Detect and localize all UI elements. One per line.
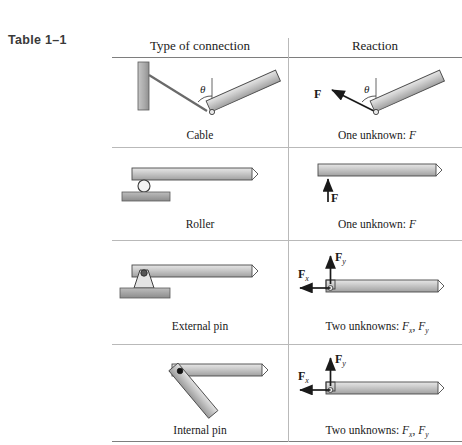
external-pin-reaction-diagram: Fy Fx xyxy=(292,248,462,318)
pin-joint xyxy=(373,109,378,114)
roller-wheel xyxy=(138,180,150,192)
caption-internal-pin: Internal pin xyxy=(112,424,288,436)
internal-pin-joint xyxy=(177,368,183,374)
caption-symbol: F xyxy=(409,129,416,141)
angle-label-theta: θ xyxy=(364,83,370,95)
cell-roller-reaction: F xyxy=(292,150,462,218)
internal-pin-connection-diagram xyxy=(112,350,288,420)
caption-symbol-fx: Fx xyxy=(402,320,412,332)
force-label-Fx: Fx xyxy=(298,267,309,283)
beam-end-cap xyxy=(436,164,442,176)
beam xyxy=(326,280,438,292)
force-label-F: F xyxy=(331,191,338,205)
column-header-connection: Type of connection xyxy=(112,38,288,54)
bottom-rule xyxy=(112,441,462,442)
row-divider-1 xyxy=(112,147,462,148)
cell-external-pin-connection xyxy=(112,248,288,318)
table-title: Table 1–1 xyxy=(8,33,67,47)
base-plate xyxy=(122,192,170,201)
column-divider xyxy=(288,38,289,442)
caption-internal-pin-reaction: Two unknowns: Fx, Fy xyxy=(292,424,462,439)
cell-cable-connection: θ xyxy=(112,58,288,130)
cell-roller-connection xyxy=(112,150,288,218)
caption-roller-reaction: One unknown: F xyxy=(292,218,462,230)
cell-cable-reaction: θ F xyxy=(292,58,462,130)
caption-prefix: Two unknowns: xyxy=(325,320,402,332)
beam xyxy=(132,168,252,180)
cable-reaction-diagram: θ F xyxy=(292,58,462,130)
force-label-Fy: Fy xyxy=(335,352,346,368)
caption-comma: , xyxy=(412,424,415,436)
caption-symbol-fx: Fx xyxy=(402,424,412,436)
beam-end-cap xyxy=(252,265,258,277)
caption-roller: Roller xyxy=(112,218,288,230)
caption-symbol: F xyxy=(409,218,416,230)
caption-external-pin: External pin xyxy=(112,320,288,332)
beam xyxy=(206,70,280,112)
caption-prefix: Two unknowns: xyxy=(325,424,402,436)
force-label-Fx: Fx xyxy=(298,369,309,385)
column-header-reaction: Reaction xyxy=(288,38,462,54)
beam-end-cap xyxy=(438,280,444,292)
beam xyxy=(318,164,436,176)
pin-joint xyxy=(209,109,214,114)
internal-pin-reaction-diagram: Fy Fx xyxy=(292,350,462,420)
wall xyxy=(138,62,149,110)
caption-prefix: One unknown: xyxy=(338,129,409,141)
cell-external-pin-reaction: Fy Fx xyxy=(292,248,462,318)
pin-hole xyxy=(141,270,147,276)
angle-label-theta: θ xyxy=(200,83,206,95)
caption-cable: Cable xyxy=(112,129,288,141)
cable-line xyxy=(149,75,207,111)
external-pin-connection-diagram xyxy=(112,248,288,318)
base-plate xyxy=(120,288,170,298)
beam-end-cap xyxy=(252,168,258,180)
caption-symbol-fy: Fy xyxy=(418,424,428,436)
beam-end-cap xyxy=(262,364,268,376)
caption-symbol-fy: Fy xyxy=(418,320,428,332)
beam-end-cap xyxy=(438,382,444,394)
roller-reaction-diagram: F xyxy=(292,150,462,218)
row-divider-2 xyxy=(112,240,462,241)
beam xyxy=(370,70,444,112)
caption-cable-reaction: One unknown: F xyxy=(292,129,462,141)
cable-connection-diagram: θ xyxy=(112,58,288,130)
caption-external-pin-reaction: Two unknowns: Fx, Fy xyxy=(292,320,462,335)
force-label-F: F xyxy=(314,87,321,101)
force-label-Fy: Fy xyxy=(335,250,346,266)
cell-internal-pin-connection xyxy=(112,350,288,420)
roller-connection-diagram xyxy=(112,150,288,218)
caption-prefix: One unknown: xyxy=(338,218,409,230)
caption-comma: , xyxy=(412,320,415,332)
beam xyxy=(326,382,438,394)
cell-internal-pin-reaction: Fy Fx xyxy=(292,350,462,420)
row-divider-3 xyxy=(112,344,462,345)
